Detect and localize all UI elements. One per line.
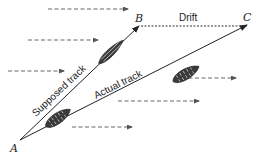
point-label-a: A <box>9 142 18 155</box>
point-label-b: B <box>134 12 143 25</box>
point-label-c: C <box>243 11 252 24</box>
drift-label: Drift <box>179 12 198 23</box>
actual-track-label: Actual track <box>92 67 145 101</box>
boat-supposed-track <box>96 37 126 66</box>
boat-actual-track <box>170 62 201 86</box>
drift-diagram: A B C Drift Supposed track Actual track <box>0 0 259 155</box>
